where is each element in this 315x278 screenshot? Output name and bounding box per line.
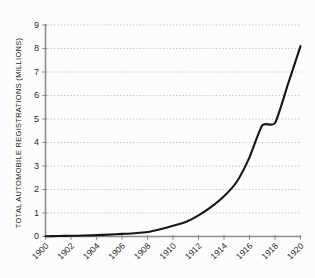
automobile-registrations-line-chart: 0123456789 19001902190419061908191019121…: [0, 0, 315, 278]
y-tick-label: 2: [34, 184, 39, 194]
y-tick-label: 3: [34, 161, 39, 171]
y-tick-label: 6: [34, 90, 39, 100]
y-tick-label: 8: [34, 43, 39, 53]
y-tick-label: 5: [34, 114, 39, 124]
y-tick-label: 7: [34, 67, 39, 77]
y-tick-label: 0: [34, 231, 39, 241]
y-tick-label: 1: [34, 208, 39, 218]
y-tick-label: 4: [34, 137, 39, 147]
chart-container: 0123456789 19001902190419061908191019121…: [0, 0, 315, 278]
y-axis-title: TOTAL AUTOMOBILE REGISTRATIONS (MILLIONS…: [14, 38, 23, 229]
y-tick-label: 9: [34, 20, 39, 30]
